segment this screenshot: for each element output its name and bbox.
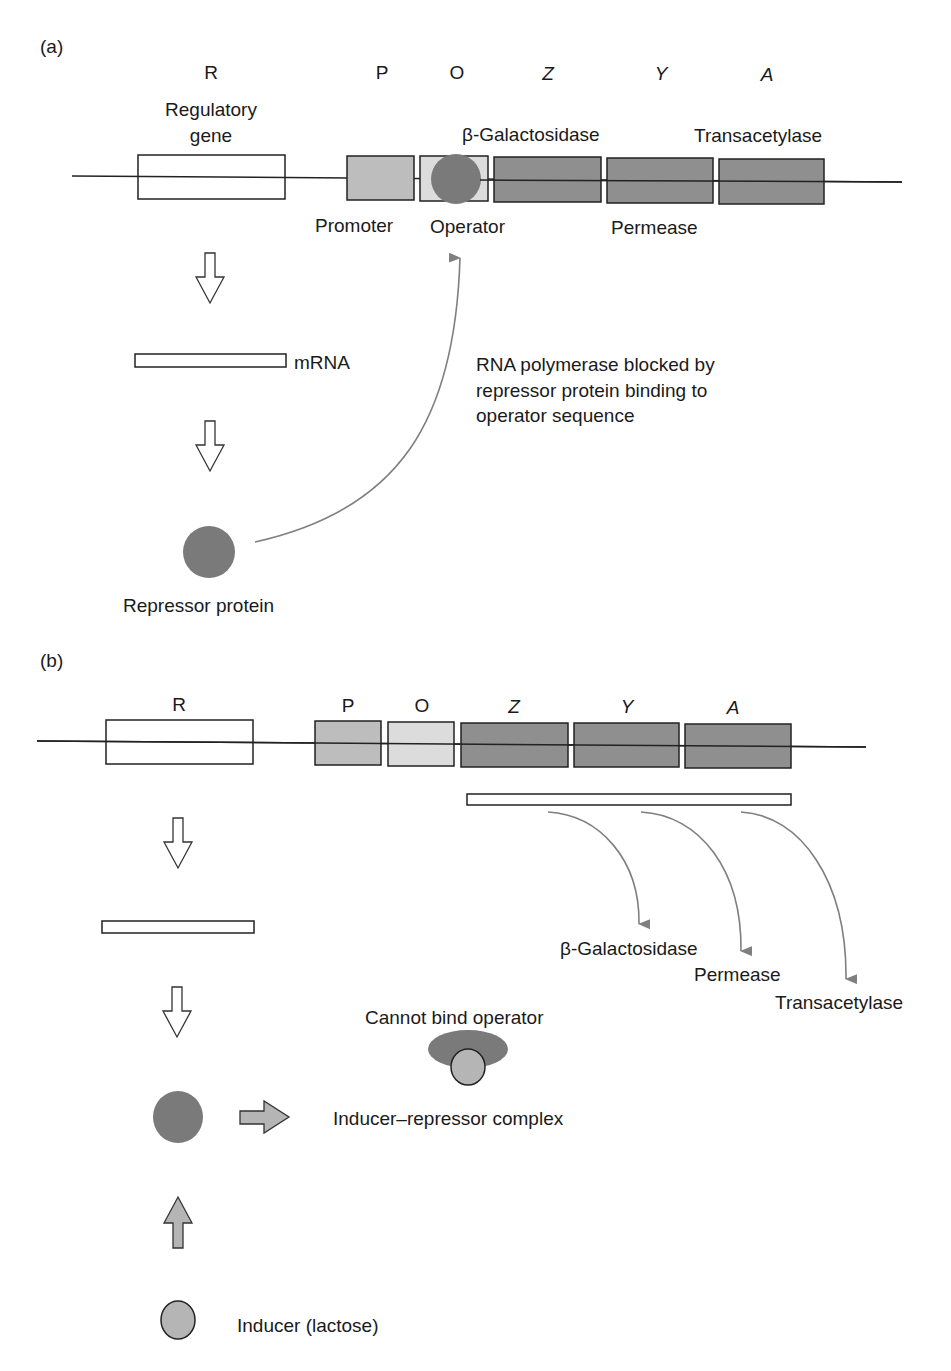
mrna-label: mRNA: [294, 353, 350, 372]
transacetylase-product-label: Transacetylase: [775, 993, 903, 1012]
regulatory-gene-label-line1: Regulatory: [165, 100, 257, 119]
panel-b-dna: [37, 720, 866, 768]
gene-letter-y-b: Y: [621, 697, 634, 716]
inducer-repressor-complex-label: Inducer–repressor complex: [333, 1109, 563, 1128]
gene-letter-r: R: [204, 63, 218, 82]
gene-letter-o-b: O: [415, 696, 430, 715]
gene-letter-a-b: A: [727, 698, 740, 717]
inducer-lactose-label: Inducer (lactose): [237, 1316, 379, 1335]
cannot-bind-operator-label: Cannot bind operator: [365, 1008, 544, 1027]
panel-a-label: (a): [40, 37, 63, 56]
open-down-arrow-icon: [163, 987, 191, 1037]
gene-letter-y: Y: [655, 64, 668, 83]
gene-letter-o: O: [450, 63, 465, 82]
operator-label: Operator: [430, 217, 505, 236]
up-arrow-icon: [164, 1197, 192, 1248]
panel-b-label: (b): [40, 651, 63, 670]
right-arrow-icon: [240, 1101, 289, 1133]
gene-letter-p: P: [376, 63, 389, 82]
gene-letter-a: A: [761, 65, 774, 84]
inducer-lactose-icon: [161, 1301, 195, 1339]
translation-arrow-transacetylase-icon: [741, 812, 846, 979]
promoter-box: [347, 156, 414, 200]
repressor-protein-icon-b: [153, 1091, 203, 1143]
permease-label: Permease: [611, 218, 698, 237]
gene-letter-z: Z: [542, 64, 554, 83]
repressor-protein-label: Repressor protein: [123, 596, 274, 615]
bound-repressor-icon: [431, 154, 481, 204]
transacetylase-label: Transacetylase: [694, 126, 822, 145]
blocked-note-line3: operator sequence: [476, 406, 634, 425]
blocked-note-line1: RNA polymerase blocked by: [476, 355, 715, 374]
panel-a-dna: [72, 154, 902, 204]
blocked-note-line2: repressor protein binding to: [476, 381, 707, 400]
translation-arrow-permease-icon: [641, 812, 741, 951]
promoter-label: Promoter: [315, 216, 393, 235]
open-down-arrow-icon: [164, 818, 192, 868]
gene-letter-r-b: R: [172, 695, 186, 714]
mrna-bar-b: [102, 921, 254, 933]
gene-letter-z-b: Z: [508, 697, 520, 716]
open-down-arrow-icon: [196, 421, 224, 471]
lac-operon-diagram: [0, 0, 951, 1371]
gene-letter-p-b: P: [342, 696, 355, 715]
translation-arrow-bgal-icon: [548, 812, 639, 924]
inducer-in-complex-icon: [451, 1049, 485, 1085]
mrna-bar-a: [135, 354, 286, 367]
beta-galactosidase-product-label: β-Galactosidase: [560, 939, 698, 958]
repressor-binding-arrow-icon: [255, 258, 460, 542]
permease-product-label: Permease: [694, 965, 781, 984]
beta-galactosidase-label: β-Galactosidase: [462, 125, 600, 144]
open-down-arrow-icon: [196, 253, 224, 303]
repressor-protein-icon: [183, 526, 235, 578]
regulatory-gene-label-line2: gene: [190, 126, 232, 145]
polycistronic-mrna-bar: [467, 794, 791, 805]
